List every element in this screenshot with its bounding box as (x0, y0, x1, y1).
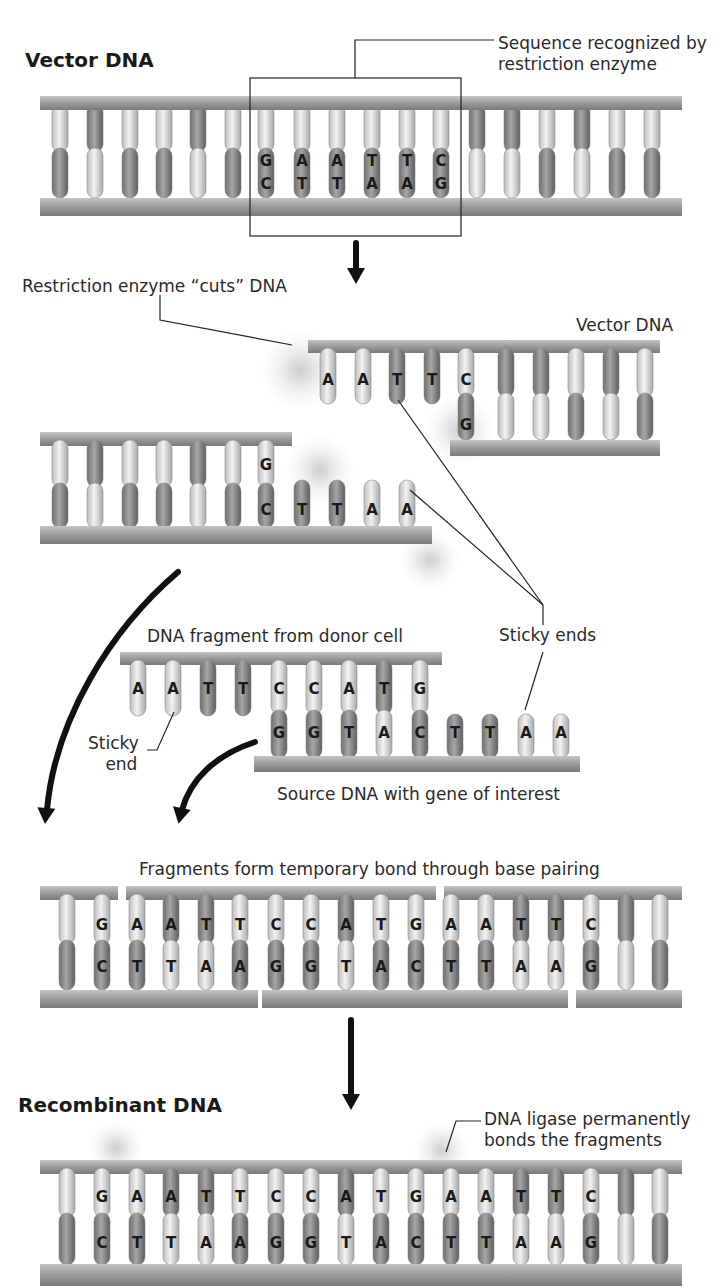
base-rung (652, 940, 668, 990)
enzyme-cut-leader (160, 295, 292, 345)
base-rung (609, 148, 625, 198)
base-letter: A (366, 175, 378, 193)
base-letter: T (551, 916, 562, 934)
base-letter: G (410, 1188, 422, 1206)
base-rung (52, 483, 68, 528)
recombinant-dna-diagram: GCATATTATACGAATTCGGCTTAAAATTCCATGGGTACTT… (0, 0, 722, 1288)
base-rung (59, 940, 75, 990)
sticky-end-leader (147, 712, 174, 750)
base-rung (539, 104, 555, 152)
base-letter: G (96, 916, 108, 934)
base-letter: A (445, 916, 457, 934)
base-rung (618, 894, 634, 944)
base-rung (618, 1213, 634, 1265)
base-rung (225, 148, 241, 198)
base-rung (568, 348, 584, 397)
base-letter: T (367, 152, 378, 170)
base-rung (603, 393, 619, 440)
base-letter: G (308, 724, 320, 742)
base-letter: C (270, 916, 281, 934)
base-rung (637, 393, 653, 440)
base-rung (618, 940, 634, 990)
base-letter: C (260, 501, 271, 519)
base-letter: A (340, 916, 352, 934)
base-rung (469, 104, 485, 152)
base-letter: A (480, 1188, 492, 1206)
base-letter: A (331, 152, 343, 170)
base-letter: T (379, 680, 390, 698)
base-letter: T (427, 371, 438, 389)
base-letter: A (401, 175, 413, 193)
base-rung (122, 148, 138, 198)
base-letter: T (203, 680, 214, 698)
recombinant-bottom-backbone (40, 1264, 682, 1286)
base-rung (52, 148, 68, 198)
base-rung (294, 104, 310, 152)
base-rung (190, 440, 206, 487)
base-rung (156, 440, 172, 487)
base-rung (504, 148, 520, 198)
base-letter: G (260, 456, 272, 474)
recognition-leader (355, 40, 494, 78)
base-letter: T (201, 916, 212, 934)
base-letter: T (132, 1234, 143, 1252)
base-letter: T (166, 958, 177, 976)
base-letter: A (296, 152, 308, 170)
base-rung (87, 483, 103, 528)
base-letter: A (234, 958, 246, 976)
base-letter: G (305, 958, 317, 976)
base-rung (574, 104, 590, 152)
base-letter: C (96, 1234, 107, 1252)
base-letter: T (332, 501, 343, 519)
base-rung (156, 104, 172, 152)
base-rung (225, 104, 241, 152)
base-rung (469, 148, 485, 198)
base-letter: G (96, 1188, 108, 1206)
base-letter: A (200, 958, 212, 976)
base-rung (225, 483, 241, 528)
base-letter: C (585, 1188, 596, 1206)
base-rung (568, 393, 584, 440)
base-letter: C (96, 958, 107, 976)
base-letter: T (166, 1234, 177, 1252)
base-rung (258, 104, 274, 152)
base-rung (539, 148, 555, 198)
joined-bottom-backbone-3 (576, 990, 682, 1008)
sticky-ends-leader-3 (525, 652, 543, 710)
base-letter: T (402, 152, 413, 170)
base-letter: G (270, 958, 282, 976)
base-rung (122, 440, 138, 487)
base-rung (190, 104, 206, 152)
base-letter: G (273, 724, 285, 742)
base-letter: T (450, 724, 461, 742)
base-letter: G (585, 958, 597, 976)
base-letter: A (167, 680, 179, 698)
base-letter: T (376, 916, 387, 934)
base-rung (637, 348, 653, 397)
base-rung (399, 104, 415, 152)
base-rung (644, 148, 660, 198)
base-letter: T (332, 175, 343, 193)
base-letter: A (445, 1188, 457, 1206)
base-letter: C (305, 1188, 316, 1206)
base-letter: A (555, 724, 567, 742)
base-letter: G (410, 916, 422, 934)
base-letter: T (201, 1188, 212, 1206)
base-letter: A (131, 916, 143, 934)
base-letter: A (375, 1234, 387, 1252)
base-letter: C (410, 958, 421, 976)
base-letter: A (401, 501, 413, 519)
base-letter: G (414, 680, 426, 698)
base-letter: T (344, 724, 355, 742)
base-rung (433, 104, 449, 152)
base-letter: T (485, 724, 496, 742)
base-rung (618, 1168, 634, 1217)
base-rung (533, 393, 549, 440)
base-rung (652, 894, 668, 944)
base-letter: A (132, 680, 144, 698)
base-letter: T (341, 1234, 352, 1252)
vector-bottom-backbone (40, 198, 682, 216)
base-letter: G (270, 1234, 282, 1252)
base-letter: A (550, 958, 562, 976)
base-letter: A (366, 501, 378, 519)
